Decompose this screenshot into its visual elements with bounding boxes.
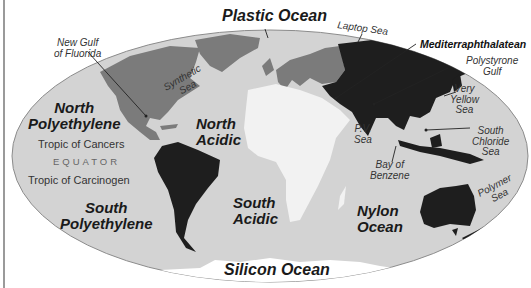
label-pv-line2: Sea — [354, 135, 372, 146]
label-new-gulf-line2: of Fluorida — [54, 49, 101, 60]
label-south-polyethylene: South Polyethylene — [60, 200, 153, 232]
label-north-acidic: North Acidic — [196, 116, 241, 148]
label-polystyrone-gulf: Polystyrone Gulf — [466, 56, 518, 77]
label-south-chloride-line3: Sea — [472, 147, 509, 158]
label-tropic-north: Tropic of Cancers — [38, 139, 124, 151]
label-south-acidic: South Acidic — [233, 195, 278, 227]
label-north-polyethylene-line2: Polyethylene — [28, 116, 121, 132]
label-very-yellow-line3: Sea — [450, 105, 479, 116]
label-south-chloride-line1: South — [472, 126, 509, 137]
label-north-acidic-line1: North — [196, 116, 241, 132]
label-south-chloride-sea: South Chloride Sea — [472, 126, 509, 158]
label-new-gulf-of-fluorida: New Gulf of Fluorida — [54, 38, 101, 59]
label-silicon-ocean: Silicon Ocean — [224, 262, 330, 279]
label-nylon-ocean: Nylon Ocean — [357, 203, 403, 235]
label-very-yellow-line1: Very — [450, 84, 479, 95]
label-south-acidic-line2: Acidic — [233, 211, 278, 227]
label-new-gulf-line1: New Gulf — [54, 38, 101, 49]
label-very-yellow-sea: Very Yellow Sea — [450, 84, 479, 116]
label-north-polyethylene: North Polyethylene — [28, 100, 121, 132]
label-equator: EQUATOR — [53, 157, 120, 167]
label-north-acidic-line2: Acidic — [196, 132, 241, 148]
label-nylon-ocean-line1: Nylon — [357, 203, 403, 219]
label-south-acidic-line1: South — [233, 195, 278, 211]
label-mediterraphthalatean: Mediterraphthalatean — [420, 39, 526, 50]
label-bay-line1: Bay of — [370, 160, 409, 171]
label-nylon-ocean-line2: Ocean — [357, 219, 403, 235]
label-polystyrone-line1: Polystyrone — [466, 56, 518, 67]
label-plastic-ocean: Plastic Ocean — [222, 8, 327, 25]
label-tropic-south: Tropic of Carcinogen — [28, 175, 130, 187]
label-north-polyethylene-line1: North — [28, 100, 121, 116]
label-pv-line1: P.V. — [354, 124, 372, 135]
label-south-polyethylene-line2: Polyethylene — [60, 216, 153, 232]
label-bay-of-benzene: Bay of Benzene — [370, 160, 409, 181]
label-south-polyethylene-line1: South — [60, 200, 153, 216]
label-polystyrone-line2: Gulf — [466, 67, 518, 78]
label-pv-sea: P.V. Sea — [354, 124, 372, 145]
label-bay-line2: Benzene — [370, 171, 409, 182]
